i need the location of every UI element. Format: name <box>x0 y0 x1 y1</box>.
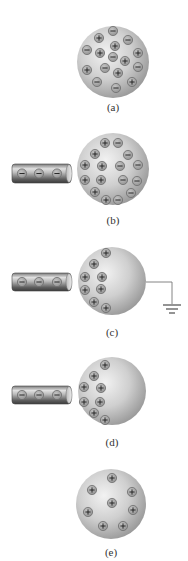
negative-charge <box>108 26 117 35</box>
positive-charge <box>107 473 116 482</box>
positive-charge <box>100 415 109 424</box>
panel-label-c: (c) <box>82 326 142 338</box>
positive-charge <box>101 248 110 257</box>
panel-e <box>76 469 146 539</box>
positive-charge <box>96 175 105 184</box>
positive-charge <box>83 507 92 516</box>
conducting-sphere <box>78 357 146 425</box>
panel-label-b: (b) <box>83 214 143 226</box>
rod-negative-charge <box>17 169 26 178</box>
positive-charge <box>100 138 109 147</box>
positive-charge <box>97 272 106 281</box>
positive-charge <box>80 175 89 184</box>
positive-charge <box>120 56 129 65</box>
positive-charge <box>95 48 104 57</box>
positive-charge <box>82 65 91 74</box>
positive-charge <box>80 272 89 281</box>
positive-charge <box>80 285 89 294</box>
positive-charge <box>89 371 98 380</box>
positive-charge <box>133 48 142 57</box>
negative-charge <box>113 138 122 147</box>
positive-charge <box>87 485 96 494</box>
panel-d <box>12 357 146 425</box>
negative-charge <box>92 77 101 86</box>
negative-charge <box>123 35 132 44</box>
rod-negative-charge <box>17 390 26 399</box>
positive-charge <box>79 382 88 391</box>
negative-charge <box>118 175 127 184</box>
rod-negative-charge <box>34 390 43 399</box>
positive-charge <box>128 505 137 514</box>
positive-charge <box>101 303 110 312</box>
ground-connection <box>146 282 181 313</box>
positive-charge <box>98 521 107 530</box>
negative-charge <box>133 160 142 169</box>
charged-rod <box>12 273 72 291</box>
positive-charge <box>89 408 98 417</box>
positive-charge <box>107 498 116 507</box>
panel-label-a: (a) <box>83 101 143 113</box>
negative-charge <box>123 150 132 159</box>
positive-charge <box>118 521 127 530</box>
positive-charge <box>89 259 98 268</box>
conducting-sphere <box>78 247 146 315</box>
negative-charge <box>82 45 91 54</box>
negative-charge <box>111 83 120 92</box>
positive-charge <box>80 160 89 169</box>
negative-charge <box>133 62 142 71</box>
rod-negative-charge <box>34 277 43 286</box>
positive-charge <box>94 33 103 42</box>
negative-charge <box>100 63 109 72</box>
charged-rod <box>12 164 72 183</box>
rod-negative-charge <box>17 277 26 286</box>
panel-a <box>77 26 149 98</box>
positive-charge <box>96 383 105 392</box>
positive-charge <box>90 187 99 196</box>
panel-c <box>12 247 181 315</box>
negative-charge <box>132 176 141 185</box>
panel-b <box>12 133 149 205</box>
negative-charge <box>115 161 124 170</box>
positive-charge <box>89 297 98 306</box>
positive-charge <box>110 41 119 50</box>
panel-label-e: (e) <box>81 546 141 558</box>
negative-charge <box>108 52 117 61</box>
positive-charge <box>101 195 110 204</box>
ground-icon <box>163 305 181 313</box>
positive-charge <box>100 360 109 369</box>
rod-negative-charge <box>34 169 43 178</box>
charged-rod <box>12 386 72 404</box>
positive-charge <box>127 77 136 86</box>
charging-by-induction-figure <box>0 0 188 561</box>
rod-negative-charge <box>52 277 61 286</box>
rod-negative-charge <box>52 169 61 178</box>
positive-charge <box>95 397 104 406</box>
positive-charge <box>79 397 88 406</box>
positive-charge <box>97 161 106 170</box>
positive-charge <box>96 284 105 293</box>
positive-charge <box>127 487 136 496</box>
panel-label-d: (d) <box>82 436 142 448</box>
positive-charge <box>90 149 99 158</box>
negative-charge <box>126 188 135 197</box>
rod-negative-charge <box>52 390 61 399</box>
negative-charge <box>113 195 122 204</box>
positive-charge <box>113 68 122 77</box>
